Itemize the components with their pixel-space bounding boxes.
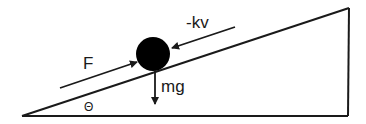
force-f-arrow <box>60 62 137 88</box>
force-f-label: F <box>83 54 93 73</box>
incline-diagram: F -kv mg Θ <box>0 0 366 124</box>
incline-right-edge <box>348 8 349 116</box>
drag-force-label: -kv <box>186 13 209 32</box>
angle-theta-label: Θ <box>84 100 93 114</box>
weight-label: mg <box>161 77 185 96</box>
ball <box>136 37 170 71</box>
